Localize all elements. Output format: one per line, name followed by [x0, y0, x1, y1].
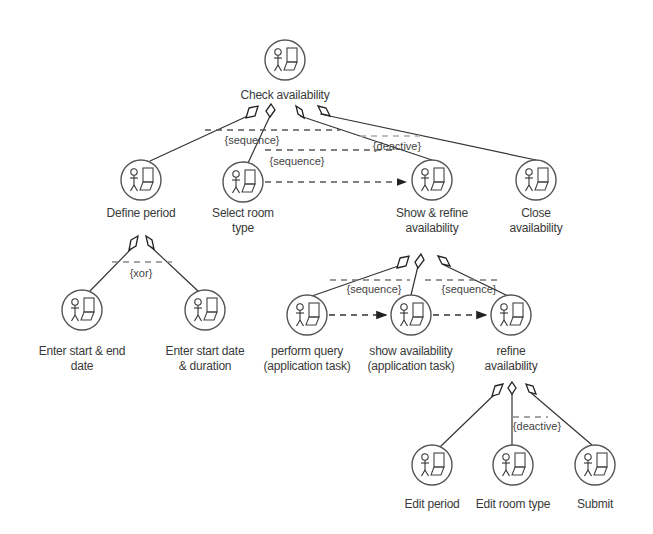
- node-enter-start-date-duration[interactable]: [185, 290, 225, 330]
- label-enter-start-date-duration: Enter start date & duration: [166, 344, 245, 374]
- node-refine-availability[interactable]: [491, 295, 531, 335]
- node-edit-room-type[interactable]: [493, 445, 533, 485]
- node-check-availability[interactable]: [265, 40, 305, 80]
- operator-deactive-2: {deactive}: [513, 420, 561, 432]
- connector-diamonds-level-1: [246, 104, 330, 118]
- label-show-refine-availability: Show & refine availability: [396, 206, 468, 236]
- label-check-availability: Check availability: [240, 88, 329, 103]
- label-select-room-type: Select room type: [212, 206, 274, 236]
- node-show-refine-availability[interactable]: [412, 160, 452, 200]
- label-submit: Submit: [577, 497, 613, 512]
- label-define-period: Define period: [107, 206, 176, 221]
- node-submit[interactable]: [575, 445, 615, 485]
- label-show-availability: show availability (application task): [367, 344, 454, 374]
- operator-sequence-4: {sequence}: [441, 283, 496, 295]
- node-close-availability[interactable]: [516, 160, 556, 200]
- label-refine-availability: refine availability: [485, 344, 538, 374]
- label-edit-room-type: Edit room type: [476, 497, 551, 512]
- operator-sequence-3: {sequence}: [346, 283, 401, 295]
- node-select-room-type[interactable]: [223, 162, 263, 202]
- node-edit-period[interactable]: [412, 445, 452, 485]
- node-perform-query[interactable]: [287, 295, 327, 335]
- node-show-availability[interactable]: [391, 295, 431, 335]
- label-edit-period: Edit period: [404, 497, 459, 512]
- operator-sequence-2: {sequence}: [269, 155, 324, 167]
- label-perform-query: perform query (application task): [263, 344, 350, 374]
- operator-xor: {xor}: [130, 267, 153, 279]
- node-enter-start-end-date[interactable]: [62, 290, 102, 330]
- label-close-availability: Close availability: [510, 206, 563, 236]
- node-define-period[interactable]: [121, 160, 161, 200]
- label-enter-start-end-date: Enter start & end date: [39, 344, 126, 374]
- operator-sequence-1: {sequence}: [224, 134, 279, 146]
- task-model-diagram: [0, 0, 653, 534]
- operator-deactive-1: {deactive}: [373, 140, 421, 152]
- edges-level-1: [150, 114, 536, 163]
